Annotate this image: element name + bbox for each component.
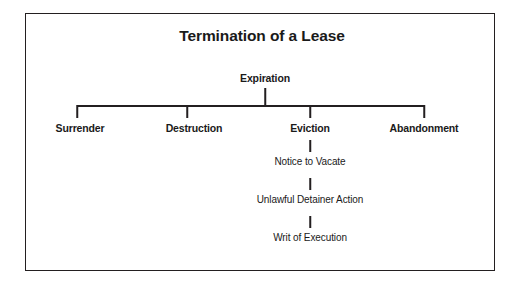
connector-tick-surrender bbox=[76, 105, 78, 118]
diagram-frame bbox=[25, 13, 495, 271]
node-destruction: Destruction bbox=[166, 123, 223, 134]
node-writ-of-execution: Writ of Execution bbox=[273, 233, 347, 244]
diagram-title: Termination of a Lease bbox=[179, 28, 344, 44]
connector-branch-bus bbox=[77, 105, 425, 107]
node-expiration: Expiration bbox=[240, 73, 290, 84]
node-abandonment: Abandonment bbox=[390, 123, 459, 134]
lease-termination-diagram: Termination of a Lease Expiration Surren… bbox=[0, 0, 524, 287]
node-surrender: Surrender bbox=[56, 123, 105, 134]
connector-detainer-to-writ bbox=[309, 216, 311, 228]
node-unlawful-detainer-action: Unlawful Detainer Action bbox=[257, 195, 364, 206]
connector-tick-eviction bbox=[309, 105, 311, 118]
node-notice-to-vacate: Notice to Vacate bbox=[274, 157, 345, 168]
connector-eviction-to-notice bbox=[309, 140, 311, 152]
connector-notice-to-detainer bbox=[309, 178, 311, 190]
node-eviction: Eviction bbox=[290, 123, 330, 134]
connector-tick-destruction bbox=[186, 105, 188, 118]
connector-expiration-down bbox=[264, 88, 266, 106]
connector-tick-abandonment bbox=[423, 105, 425, 118]
